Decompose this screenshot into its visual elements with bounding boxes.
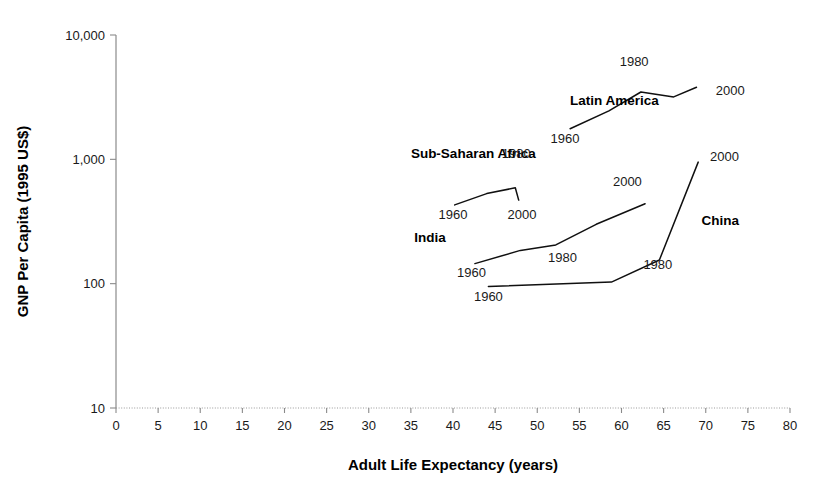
year-label: 1980 (548, 250, 577, 265)
year-label: 1960 (457, 265, 486, 280)
y-axis-title: GNP Per Capita (1995 US$) (14, 126, 31, 317)
x-tick-label: 80 (783, 418, 797, 433)
x-tick-label: 10 (193, 418, 207, 433)
x-tick-label: 25 (319, 418, 333, 433)
year-label: 1980 (502, 146, 531, 161)
y-tick-label: 10 (91, 401, 105, 416)
year-label: 2000 (710, 149, 739, 164)
year-label: 1980 (620, 54, 649, 69)
year-label: 2000 (613, 174, 642, 189)
x-tick-label: 50 (530, 418, 544, 433)
x-tick-label: 40 (446, 418, 460, 433)
series-label-india: India (414, 230, 446, 245)
x-tick-label: 70 (699, 418, 713, 433)
gnp-life-expectancy-chart: 101001,00010,000051015202530354045505560… (0, 0, 813, 504)
chart-container: 101001,00010,000051015202530354045505560… (0, 0, 813, 504)
series-line-sub-saharan-africa (455, 188, 519, 205)
x-tick-label: 20 (277, 418, 291, 433)
year-label: 2000 (716, 83, 745, 98)
year-label: 1960 (551, 131, 580, 146)
series-label-latin-america: Latin America (570, 93, 659, 108)
y-tick-label: 10,000 (65, 28, 105, 43)
x-tick-label: 45 (488, 418, 502, 433)
x-tick-label: 55 (572, 418, 586, 433)
year-label: 1960 (439, 207, 468, 222)
x-tick-label: 65 (656, 418, 670, 433)
year-label: 1960 (474, 289, 503, 304)
y-tick-label: 1,000 (72, 152, 105, 167)
x-axis-title: Adult Life Expectancy (years) (348, 456, 558, 473)
year-label: 1980 (643, 257, 672, 272)
year-label: 2000 (508, 207, 537, 222)
series-label-china: China (702, 213, 740, 228)
x-tick-label: 75 (741, 418, 755, 433)
x-tick-label: 35 (404, 418, 418, 433)
x-tick-label: 0 (112, 418, 119, 433)
x-tick-label: 5 (155, 418, 162, 433)
y-tick-label: 100 (83, 276, 105, 291)
x-tick-label: 15 (235, 418, 249, 433)
x-tick-label: 30 (362, 418, 376, 433)
x-tick-label: 60 (614, 418, 628, 433)
